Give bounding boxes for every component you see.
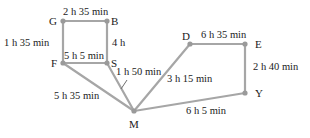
edge-label-S-M: 1 h 50 min xyxy=(116,66,162,77)
node-label-Y: Y xyxy=(255,87,263,99)
node-label-E: E xyxy=(255,38,262,50)
edge-label-F-M: 5 h 35 min xyxy=(54,90,100,101)
edge-label-B-S: 4 h xyxy=(112,37,126,48)
node-G xyxy=(60,18,65,23)
edge-label-D-M: 3 h 15 min xyxy=(167,73,213,84)
edge-label-M-Y: 6 h 5 min xyxy=(186,105,227,116)
graph-diagram: G B F S D E Y M 2 h 35 min 1 h 35 min 4 … xyxy=(0,0,310,138)
node-F xyxy=(60,60,65,65)
edge-label-F-S: 5 h 5 min xyxy=(64,50,105,61)
edge-label-G-F: 1 h 35 min xyxy=(4,37,50,48)
node-label-F: F xyxy=(51,57,57,69)
node-E xyxy=(242,41,247,46)
node-label-B: B xyxy=(111,15,118,27)
leader-line-S-M xyxy=(121,80,127,89)
edge-label-D-E: 6 h 35 min xyxy=(201,29,247,40)
node-label-G: G xyxy=(49,15,57,27)
node-S xyxy=(104,60,109,65)
node-B xyxy=(104,18,109,23)
node-label-M: M xyxy=(129,118,139,130)
node-label-D: D xyxy=(182,30,190,42)
node-M xyxy=(131,108,136,113)
edge-label-E-Y: 2 h 40 min xyxy=(253,61,299,72)
node-Y xyxy=(242,90,247,95)
edge-label-G-B: 2 h 35 min xyxy=(63,6,109,17)
node-D xyxy=(187,41,192,46)
